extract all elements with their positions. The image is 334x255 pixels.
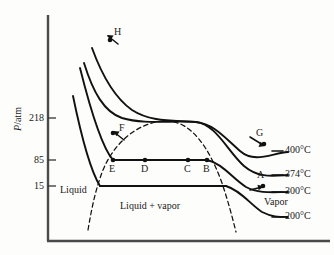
point-label-e: E <box>109 164 115 174</box>
coexistence-dome-curve <box>88 121 236 232</box>
point-label-a: A <box>257 170 264 180</box>
y-tick-label-218: 218 <box>16 113 44 123</box>
point-label-c: C <box>184 164 191 174</box>
temperature-leader-lines <box>272 151 283 217</box>
plot-canvas <box>0 0 334 255</box>
y-tick-label-15: 15 <box>16 181 44 191</box>
region-label-vapor: Vapor <box>264 197 288 207</box>
y-tick-label-85: 85 <box>16 155 44 165</box>
point-label-f: F <box>119 123 125 133</box>
data-point-b <box>205 158 210 163</box>
data-point-c <box>186 158 191 163</box>
point-label-b: B <box>203 164 210 174</box>
axes-group <box>47 15 330 241</box>
temperature-label-200c: 200°C <box>285 211 311 221</box>
phase-diagram-figure: P/atm 218 85 15 Liquid Liquid + vapor Va… <box>0 0 334 255</box>
point-label-d: D <box>141 164 148 174</box>
data-point-d <box>143 158 148 163</box>
region-label-liquid: Liquid <box>60 185 87 195</box>
temperature-label-400c: 400°C <box>285 145 311 155</box>
region-label-liquid-vapor: Liquid + vapor <box>120 201 180 211</box>
data-point-e <box>111 158 116 163</box>
point-label-g: G <box>256 128 263 138</box>
y-axis-title-symbol: P <box>12 125 23 131</box>
temperature-label-374c: 374°C <box>285 169 311 179</box>
point-label-h: H <box>114 27 121 37</box>
temperature-label-300c: 300°C <box>285 186 311 196</box>
